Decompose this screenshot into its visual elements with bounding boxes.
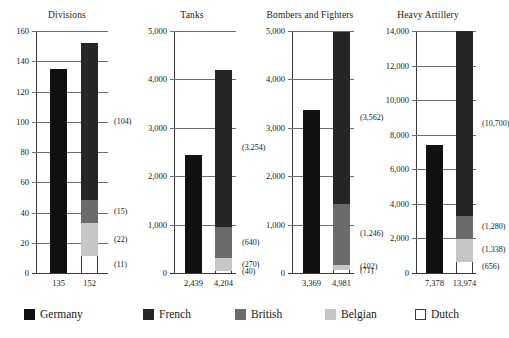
- bar-segment-germany: [426, 145, 443, 273]
- gridline: [170, 273, 236, 274]
- legend-swatch-british: [235, 309, 246, 320]
- y-axis-tick-label: 1,000: [246, 221, 285, 230]
- y-axis-tick-label: 5,000: [246, 27, 285, 36]
- y-axis-tick-label: 14,000: [366, 27, 409, 36]
- y-axis-tick-label: 160: [0, 27, 29, 36]
- plot-area: 01,0002,0003,0004,0005,000(71)(102)(1,24…: [292, 31, 354, 273]
- segment-value-label: (656): [482, 263, 499, 271]
- bar-segment-french: [215, 70, 232, 227]
- total-label-germany: 7,378: [418, 279, 451, 288]
- bar-segment-dutch: [215, 271, 232, 273]
- legend-swatch-french: [143, 309, 154, 320]
- legend-swatch-dutch: [415, 309, 426, 320]
- y-axis-tick-label: 0: [0, 269, 29, 278]
- y-axis-tick-label: 20: [0, 239, 29, 248]
- y-axis-tick-label: 12,000: [366, 62, 409, 71]
- plot-area: 01,0002,0003,0004,0005,000(40)(270)(640)…: [174, 31, 236, 273]
- chart-panel: Tanks01,0002,0003,0004,0005,000(40)(270)…: [134, 10, 250, 300]
- bar-segment-belgian: [215, 258, 232, 271]
- bar-segment-dutch: [81, 256, 98, 273]
- y-axis-tick-label: 40: [0, 209, 29, 218]
- bar-segment-belgian: [81, 223, 98, 256]
- bar-segment-germany: [185, 155, 202, 273]
- panel-row: Divisions020406080100120140160(11)(22)(1…: [0, 10, 486, 300]
- y-axis-tick-label: 0: [246, 269, 285, 278]
- segment-value-label: (1,338): [482, 246, 505, 254]
- legend-label: British: [251, 308, 282, 320]
- panel-title: Divisions: [0, 10, 134, 20]
- legend-item-french: French: [143, 308, 191, 320]
- legend-label: Belgian: [341, 308, 377, 320]
- legend-item-germany: Germany: [24, 308, 83, 320]
- bar-segment-french: [333, 32, 350, 204]
- total-label-allied: 4,981: [325, 279, 358, 288]
- plot-area: 020406080100120140160(11)(22)(15)(104): [36, 31, 108, 273]
- bar-segment-dutch: [333, 270, 350, 273]
- y-axis-tick-label: 2,000: [130, 172, 167, 181]
- y-axis-tick-label: 4,000: [130, 75, 167, 84]
- bar-segment-french: [456, 31, 473, 216]
- y-axis-tick-label: 8,000: [366, 131, 409, 140]
- legend-swatch-germany: [24, 309, 35, 320]
- total-label-allied: 152: [73, 279, 106, 288]
- y-axis-tick-label: 4,000: [246, 75, 285, 84]
- bar-segment-germany: [303, 110, 320, 273]
- segment-value-label: (11): [114, 261, 127, 269]
- total-label-allied: 4,204: [207, 279, 240, 288]
- bar-segment-british: [456, 216, 473, 238]
- panel-title: Bombers and Fighters: [250, 10, 370, 20]
- chart-panel: Divisions020406080100120140160(11)(22)(1…: [0, 10, 134, 300]
- total-label-germany: 2,439: [177, 279, 210, 288]
- bar-germany: [426, 145, 443, 273]
- bar-segment-belgian: [456, 239, 473, 262]
- legend-item-dutch: Dutch: [415, 308, 459, 320]
- y-axis-line: [292, 31, 293, 273]
- bar-allied-stacked: [456, 31, 473, 273]
- bar-segment-french: [81, 43, 98, 200]
- bar-germany: [50, 69, 67, 273]
- panel-title: Tanks: [134, 10, 250, 20]
- segment-value-label: (104): [114, 118, 131, 126]
- total-label-germany: 135: [42, 279, 75, 288]
- y-axis-tick-label: 0: [130, 269, 167, 278]
- y-axis-tick-label: 120: [0, 88, 29, 97]
- segment-value-label: (10,700): [482, 120, 509, 128]
- gridline: [412, 273, 476, 274]
- y-axis-line: [416, 31, 417, 273]
- bar-segment-british: [215, 227, 232, 258]
- segment-value-label: (1,280): [482, 223, 505, 231]
- chart-legend: GermanyFrenchBritishBelgianDutch: [0, 303, 486, 325]
- y-axis-tick-label: 1,000: [130, 221, 167, 230]
- y-axis-tick-label: 10,000: [366, 96, 409, 105]
- gridline: [32, 273, 108, 274]
- total-label-germany: 3,369: [295, 279, 328, 288]
- gridline: [288, 273, 354, 274]
- y-axis-tick-label: 4,000: [366, 200, 409, 209]
- bar-allied-stacked: [333, 32, 350, 273]
- bar-allied-stacked: [215, 70, 232, 273]
- bar-segment-germany: [50, 69, 67, 273]
- legend-label: Dutch: [431, 308, 459, 320]
- legend-label: French: [159, 308, 191, 320]
- bar-germany: [185, 155, 202, 273]
- legend-label: Germany: [40, 308, 83, 320]
- y-axis-tick-label: 0: [366, 269, 409, 278]
- panel-title: Heavy Artillery: [370, 10, 486, 20]
- y-axis-tick-label: 3,000: [130, 124, 167, 133]
- y-axis-tick-label: 5,000: [130, 27, 167, 36]
- total-label-allied: 13,974: [448, 279, 481, 288]
- gridline: [32, 31, 108, 32]
- chart-panel: Heavy Artillery02,0004,0006,0008,00010,0…: [370, 10, 486, 300]
- bar-segment-british: [333, 204, 350, 264]
- bar-segment-dutch: [456, 262, 473, 273]
- y-axis-tick-label: 140: [0, 57, 29, 66]
- plot-area: 02,0004,0006,0008,00010,00012,00014,000(…: [416, 31, 476, 273]
- y-axis-tick-label: 3,000: [246, 124, 285, 133]
- segment-value-label: (22): [114, 236, 127, 244]
- bar-germany: [303, 110, 320, 273]
- y-axis-tick-label: 100: [0, 118, 29, 127]
- chart-panel: Bombers and Fighters01,0002,0003,0004,00…: [250, 10, 370, 300]
- y-axis-tick-label: 2,000: [366, 234, 409, 243]
- y-axis-line: [174, 31, 175, 273]
